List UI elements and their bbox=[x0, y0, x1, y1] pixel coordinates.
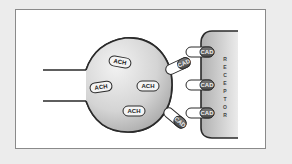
ach-vesicle: ACH bbox=[123, 106, 145, 116]
cad-free-molecule: CAD bbox=[162, 106, 189, 131]
cad-free-molecule: CAD bbox=[164, 56, 192, 76]
svg-text:ACH: ACH bbox=[128, 108, 141, 114]
svg-text:C: C bbox=[223, 72, 227, 78]
svg-text:R: R bbox=[223, 112, 227, 118]
svg-text:ACH: ACH bbox=[142, 83, 155, 89]
cad-bound-molecule: CAD bbox=[186, 108, 214, 118]
ach-vesicle: ACH bbox=[137, 81, 159, 91]
svg-text:CAD: CAD bbox=[201, 49, 215, 55]
cad-bound-molecule: CAD bbox=[186, 47, 214, 57]
svg-text:O: O bbox=[223, 104, 227, 110]
cad-bound-molecule: CAD bbox=[186, 80, 214, 90]
svg-text:R: R bbox=[223, 56, 227, 62]
synapse-diagram: ACH ACH ACH ACH CAD CAD CAD CAD bbox=[0, 0, 292, 164]
svg-text:T: T bbox=[223, 96, 226, 102]
svg-text:CAD: CAD bbox=[201, 82, 215, 88]
svg-text:CAD: CAD bbox=[201, 110, 215, 116]
